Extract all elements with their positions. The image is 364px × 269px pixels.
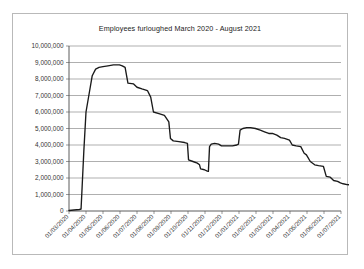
data-series-line (69, 65, 349, 211)
y-tick-label: 1,000,000 (35, 191, 64, 198)
y-tick-label: 8,000,000 (35, 75, 64, 82)
y-tick-label: 3,000,000 (35, 158, 64, 165)
y-tick-label: 10,000,000 (32, 42, 64, 49)
y-axis-tick-labels: 10,000,0009,000,0008,000,0007,000,0006,0… (32, 42, 64, 214)
y-tick-label: 4,000,000 (35, 141, 64, 148)
chart-container: Employees furloughed March 2020 - August… (12, 13, 348, 255)
x-axis-tick-labels: 01/03/202001/04/202001/05/202001/06/2020… (43, 212, 342, 239)
y-tick-label: 9,000,000 (35, 59, 64, 66)
y-tick-label: 6,000,000 (35, 108, 64, 115)
chart-plot: 10,000,0009,000,0008,000,0007,000,0006,0… (13, 14, 349, 256)
gridlines (66, 46, 341, 211)
y-tick-label: 2,000,000 (35, 174, 64, 181)
y-tick-label: 5,000,000 (35, 125, 64, 132)
y-tick-label: 7,000,000 (35, 92, 64, 99)
